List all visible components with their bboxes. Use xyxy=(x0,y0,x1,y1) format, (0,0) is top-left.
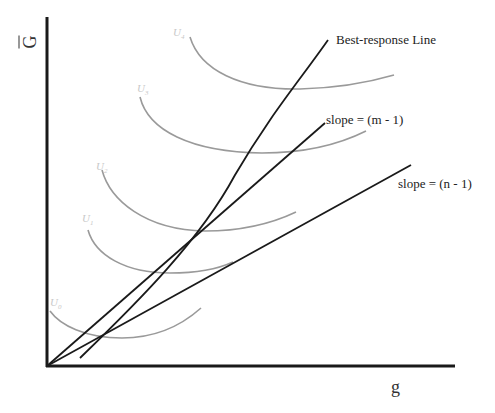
slope-m-line-label: slope = (m - 1) xyxy=(326,113,403,126)
best-response-line-label: Best-response Line xyxy=(336,33,436,46)
best-response-line xyxy=(80,40,328,358)
y-axis-label: G xyxy=(21,36,39,49)
curve-label-u3: U3 xyxy=(137,83,148,97)
slope-m-line xyxy=(47,123,325,366)
diagram-canvas xyxy=(0,0,495,413)
slope-n-line-label: slope = (n - 1) xyxy=(398,177,472,190)
curve-label-u2: U2 xyxy=(96,161,107,175)
curve-label-u1: U1 xyxy=(82,213,93,227)
curve-label-u0: U0 xyxy=(50,297,61,311)
indifference-curve-u2 xyxy=(102,170,296,231)
slope-n-line xyxy=(47,165,411,366)
curve-label-u4: U4 xyxy=(173,27,184,41)
x-axis-label: g xyxy=(391,378,400,396)
